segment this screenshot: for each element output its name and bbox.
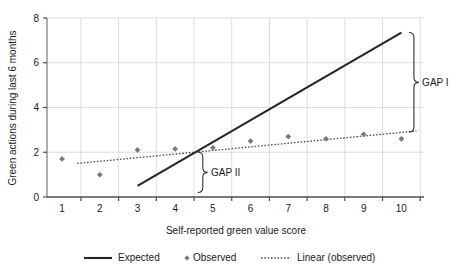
linear-observed-line (77, 131, 416, 163)
annotation-gap2: GAP II (198, 152, 240, 192)
observed-data-point (398, 136, 404, 142)
y-tick-label-6: 6 (33, 57, 39, 68)
gap2-label: GAP II (211, 167, 240, 178)
x-tick-label-1: 1 (59, 203, 65, 214)
x-tick-label-9: 9 (361, 203, 367, 214)
x-tick-label-10: 10 (396, 203, 408, 214)
y-tick-label-4: 4 (33, 102, 39, 113)
x-tick-label-6: 6 (248, 203, 254, 214)
x-axis-ticks: 12345678910 (59, 197, 420, 214)
gap2-bracket (198, 152, 208, 192)
x-tick-label-2: 2 (97, 203, 103, 214)
observed-data-point (285, 134, 291, 140)
x-tick-label-5: 5 (210, 203, 216, 214)
chart-figure: 02468 12345678910 GAP I GAP II Self-repo… (0, 0, 457, 274)
x-axis-title: Self-reported green value score (166, 225, 307, 236)
green-actions-scatter-chart: 02468 12345678910 GAP I GAP II Self-repo… (0, 0, 457, 274)
x-tick-label-8: 8 (323, 203, 329, 214)
x-tick-label-7: 7 (285, 203, 291, 214)
legend-observed-swatch (184, 255, 189, 261)
series-linear-observed (77, 131, 416, 163)
y-tick-label-8: 8 (33, 13, 39, 24)
observed-data-point (172, 146, 178, 152)
observed-data-point (97, 172, 103, 178)
observed-data-point (248, 138, 254, 144)
observed-data-point (59, 156, 65, 162)
gap1-label: GAP I (422, 77, 449, 88)
y-axis-title: Green actions during last 6 months (7, 30, 18, 185)
y-tick-label-2: 2 (33, 147, 39, 158)
observed-data-point (210, 145, 216, 151)
chart-legend: Expected Observed Linear (observed) (84, 252, 375, 263)
y-tick-label-0: 0 (33, 192, 39, 203)
x-tick-label-3: 3 (135, 203, 141, 214)
gap1-bracket (409, 33, 419, 133)
x-tick-label-4: 4 (172, 203, 178, 214)
annotation-gap1: GAP I (409, 33, 449, 133)
legend-expected-label: Expected (118, 252, 160, 263)
observed-data-point (323, 136, 329, 142)
legend-linear-label: Linear (observed) (297, 252, 375, 263)
legend-observed-label: Observed (193, 252, 236, 263)
y-axis-ticks: 02468 (33, 13, 47, 203)
observed-data-point (361, 131, 367, 137)
